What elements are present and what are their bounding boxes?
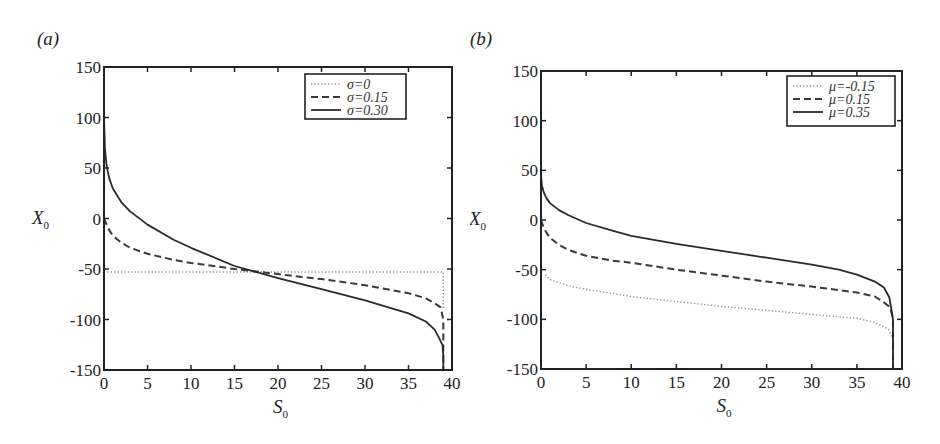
x-tick-label: 10 — [183, 374, 200, 393]
series-line-solid — [104, 118, 443, 371]
y-axis-title: X0 — [31, 207, 50, 231]
x-tick-label: 20 — [270, 374, 287, 393]
x-tick-label: 30 — [357, 374, 374, 393]
chart-panel-a: (a) 0510152025303540150100500-50-100-150… — [0, 0, 470, 444]
x-tick-label: 5 — [582, 373, 591, 392]
y-tick-label: 50 — [84, 159, 101, 178]
legend: μ=-0.15μ=0.15μ=0.35 — [787, 76, 895, 126]
y-tick-label: 100 — [513, 112, 539, 131]
x-tick-label: 40 — [444, 374, 461, 393]
legend-label: σ=0.30 — [347, 103, 388, 118]
x-tick-label: 25 — [313, 374, 330, 393]
y-tick-label: 50 — [521, 161, 538, 180]
x-tick-label: 15 — [668, 373, 685, 392]
chart-panel-b: (b) 0510152025303540150100500-50-100-150… — [470, 0, 940, 444]
y-tick-label: -100 — [70, 311, 101, 330]
y-tick-label: -100 — [507, 310, 538, 329]
x-tick-label: 0 — [100, 374, 109, 393]
legend: σ=0σ=0.15σ=0.30 — [305, 74, 406, 119]
x-tick-label: 0 — [537, 373, 546, 392]
x-tick-label: 35 — [848, 373, 865, 392]
x-tick-label: 15 — [226, 374, 243, 393]
x-tick-label: 20 — [713, 373, 730, 392]
y-tick-label: 0 — [530, 211, 539, 230]
x-tick-label: 10 — [623, 373, 640, 392]
y-axis-title: X0 — [470, 208, 487, 232]
chart-b-svg: 0510152025303540150100500-50-100-150S0X0… — [470, 0, 940, 444]
series-line-dashed — [104, 219, 443, 371]
series-line-dashed — [541, 220, 893, 369]
y-tick-label: -50 — [515, 261, 538, 280]
legend-label: μ=0.35 — [828, 105, 870, 120]
x-axis-title: S0 — [273, 396, 289, 420]
y-tick-label: 100 — [76, 109, 102, 128]
y-tick-label: 150 — [513, 62, 539, 81]
series-line-dotted — [546, 275, 894, 369]
x-tick-label: 30 — [803, 373, 820, 392]
y-tick-label: 0 — [93, 210, 102, 229]
y-tick-label: -50 — [78, 260, 101, 279]
series-line-solid — [541, 175, 893, 369]
chart-a-svg: 0510152025303540150100500-50-100-150S0X0… — [0, 0, 470, 444]
x-tick-label: 5 — [143, 374, 152, 393]
y-tick-label: 150 — [76, 58, 102, 77]
x-tick-label: 40 — [894, 373, 911, 392]
x-tick-label: 35 — [400, 374, 417, 393]
y-tick-label: -150 — [70, 361, 101, 380]
y-tick-label: -150 — [507, 360, 538, 379]
x-axis-title: S0 — [717, 395, 733, 419]
x-tick-label: 25 — [758, 373, 775, 392]
